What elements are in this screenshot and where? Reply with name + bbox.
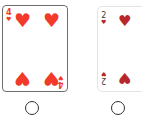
card-index-top: 4 ♥ xyxy=(6,9,12,22)
heart-icon: ♥ xyxy=(14,11,31,30)
card-index-top: 2 ♥ xyxy=(101,12,106,25)
heart-icon: ♥ xyxy=(58,75,64,81)
card-2-radio[interactable] xyxy=(111,101,125,115)
heart-icon: ♥ xyxy=(101,71,106,77)
heart-icon: ♥ xyxy=(101,19,106,25)
card-1-radio[interactable] xyxy=(25,101,39,115)
heart-icon: ♥ xyxy=(118,14,131,29)
heart-icon: ♥ xyxy=(14,69,31,88)
card-index-bottom: 2 ♥ xyxy=(101,71,106,84)
card-4-of-hearts[interactable]: 4 ♥ ♥ ♥ ♥ ♥ 4 ♥ xyxy=(2,5,68,92)
heart-icon: ♥ xyxy=(118,70,131,85)
heart-icon: ♥ xyxy=(43,11,60,30)
heart-icon: ♥ xyxy=(6,16,12,22)
card-2-of-hearts[interactable]: 2 ♥ ♥ ♥ 2 ♥ xyxy=(97,6,142,92)
card-index-bottom: 4 ♥ xyxy=(58,75,64,88)
